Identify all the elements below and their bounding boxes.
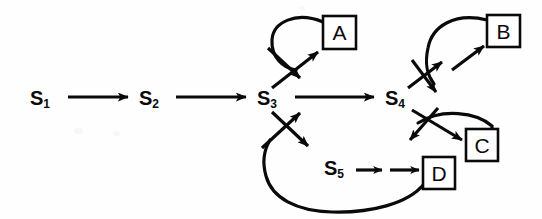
- state-base-s3: S: [257, 87, 270, 109]
- diagram-canvas: S1 S2 S3 S4 S5 A B C D: [0, 0, 542, 219]
- state-subscript-s4: 4: [398, 97, 405, 111]
- state-label-s5: S5: [324, 158, 344, 178]
- edge-s3-a-loop: [272, 18, 323, 70]
- state-subscript-s1: 1: [43, 97, 50, 111]
- output-label-b: B: [487, 21, 520, 42]
- state-subscript-s5: 5: [337, 167, 344, 181]
- output-label-a: A: [323, 22, 356, 43]
- output-label-d: D: [423, 163, 455, 184]
- state-base-s5: S: [324, 157, 337, 179]
- edge-s4-b-arrow: [452, 46, 484, 70]
- state-subscript-s3: 3: [270, 97, 277, 111]
- state-label-s4: S4: [385, 88, 405, 108]
- state-label-s2: S2: [139, 88, 159, 108]
- state-label-s1: S1: [30, 88, 50, 108]
- state-base-s1: S: [30, 87, 43, 109]
- output-label-c: C: [466, 135, 498, 156]
- edge-s4-b-cross-arrow: [412, 60, 436, 92]
- state-subscript-s2: 2: [152, 97, 159, 111]
- state-base-s2: S: [139, 87, 152, 109]
- state-label-s3: S3: [257, 88, 277, 108]
- edge-s3-a-cross-arrow: [268, 48, 300, 78]
- state-base-s4: S: [385, 87, 398, 109]
- edge-s3-s5-arrow: [272, 112, 308, 146]
